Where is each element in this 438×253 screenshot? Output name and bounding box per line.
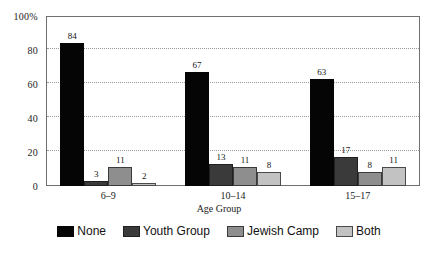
chart-legend: NoneYouth GroupJewish CampBoth <box>0 224 438 238</box>
bar-group: 6713118 <box>185 16 281 186</box>
bar-value-label: 67 <box>193 60 202 70</box>
legend-swatch-icon <box>227 226 244 237</box>
x-axis-title: Age Group <box>0 203 438 214</box>
legend-label: None <box>77 224 106 238</box>
y-axis: 020406080100% <box>0 16 42 186</box>
legend-swatch-icon <box>123 226 140 237</box>
bar[interactable] <box>132 183 156 186</box>
bar-value-label: 84 <box>68 31 77 41</box>
bar-value-label: 8 <box>267 160 272 170</box>
bar[interactable] <box>334 157 358 186</box>
legend-item[interactable]: Jewish Camp <box>227 224 319 238</box>
bar-value-label: 17 <box>341 145 350 155</box>
x-axis-category-label: 15–17 <box>345 190 370 201</box>
y-axis-tick-label: 20 <box>27 147 38 158</box>
bar-value-label: 11 <box>241 155 250 165</box>
bar-wrap: 11 <box>108 16 132 186</box>
bar-value-label: 11 <box>116 155 125 165</box>
legend-item[interactable]: Both <box>336 224 381 238</box>
bar-wrap: 8 <box>257 16 281 186</box>
legend-swatch-icon <box>57 226 74 237</box>
bar-wrap: 63 <box>310 16 334 186</box>
bar-value-label: 11 <box>389 155 398 165</box>
bar-value-label: 3 <box>94 169 99 179</box>
bar-chart: 020406080100% 84311267131186317811 6–910… <box>0 0 438 253</box>
legend-label: Both <box>356 224 381 238</box>
y-axis-tick-label: 80 <box>27 45 38 56</box>
bar[interactable] <box>84 181 108 186</box>
bar[interactable] <box>310 79 334 186</box>
bar-wrap: 8 <box>358 16 382 186</box>
bar-wrap: 2 <box>132 16 156 186</box>
bar-wrap: 3 <box>84 16 108 186</box>
bar-wrap: 17 <box>334 16 358 186</box>
y-axis-tick-label: 40 <box>27 113 38 124</box>
bar[interactable] <box>209 164 233 186</box>
bars-layer: 84311267131186317811 <box>46 16 420 186</box>
y-axis-tick-label: 100% <box>13 11 38 22</box>
bar-wrap: 67 <box>185 16 209 186</box>
bar[interactable] <box>233 167 257 186</box>
legend-label: Jewish Camp <box>247 224 319 238</box>
x-axis-category-label: 10–14 <box>221 190 246 201</box>
bar[interactable] <box>108 167 132 186</box>
bar[interactable] <box>60 43 84 186</box>
legend-item[interactable]: Youth Group <box>123 224 210 238</box>
bar-wrap: 11 <box>233 16 257 186</box>
bar-group: 6317811 <box>310 16 406 186</box>
bar[interactable] <box>358 172 382 186</box>
bar-value-label: 63 <box>317 67 326 77</box>
bar[interactable] <box>185 72 209 186</box>
legend-label: Youth Group <box>143 224 210 238</box>
y-axis-tick-label: 60 <box>27 79 38 90</box>
bar-value-label: 2 <box>142 171 147 181</box>
bar[interactable] <box>257 172 281 186</box>
bar[interactable] <box>382 167 406 186</box>
legend-swatch-icon <box>336 226 353 237</box>
legend-item[interactable]: None <box>57 224 106 238</box>
x-axis-category-label: 6–9 <box>101 190 116 201</box>
bar-wrap: 84 <box>60 16 84 186</box>
bar-group: 843112 <box>60 16 156 186</box>
y-axis-tick-label: 0 <box>33 181 38 192</box>
bar-value-label: 13 <box>217 152 226 162</box>
x-axis-category-labels: 6–910–1415–17 <box>46 190 420 204</box>
bar-value-label: 8 <box>367 160 372 170</box>
bar-wrap: 13 <box>209 16 233 186</box>
bar-wrap: 11 <box>382 16 406 186</box>
